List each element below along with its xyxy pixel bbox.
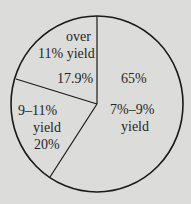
slice-over-value: 17.9% bbox=[57, 71, 93, 87]
slice-main-value: 65% bbox=[121, 71, 147, 87]
slice-main-label-line2: yield bbox=[121, 119, 149, 135]
pie-chart bbox=[0, 0, 191, 204]
slice-mid-label-line2: yield bbox=[33, 120, 61, 136]
slice-mid-label-line1: 9–11% bbox=[18, 103, 57, 119]
slice-main-label-line1: 7%–9% bbox=[110, 102, 154, 118]
slice-over-label-line2: 11% yield bbox=[38, 46, 95, 62]
slice-over-label-line1: over bbox=[66, 29, 91, 45]
slice-mid-value: 20% bbox=[34, 137, 60, 153]
